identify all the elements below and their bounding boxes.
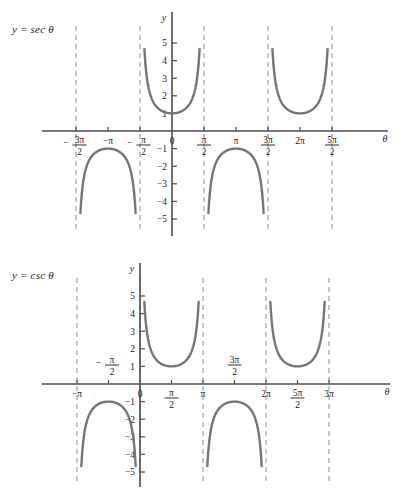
- x-tick-label: 0: [138, 389, 143, 399]
- x-tick-label-denominator: 2: [141, 147, 146, 157]
- curve-branch: [270, 302, 324, 367]
- axes-group: [42, 263, 390, 487]
- y-tick-label: 5: [162, 38, 167, 48]
- axes-group: [42, 12, 388, 236]
- x-tick-label-numerator: 5π: [327, 135, 337, 145]
- x-tick-label-numerator: 3π: [263, 135, 273, 145]
- plot-secant: −3π2−π−π20π2π3π22π5π254321−1−2−3−4−5yθ: [0, 0, 414, 245]
- y-tick-label: −5: [157, 214, 167, 224]
- x-tick-label-denominator: 2: [232, 367, 237, 377]
- y-axis-label: y: [161, 12, 167, 23]
- x-tick-label-denominator: 2: [295, 400, 300, 410]
- y-axis-label: y: [129, 263, 135, 274]
- equation-label-sec: y = sec θ: [12, 23, 54, 35]
- y-tick-label: 4: [130, 309, 135, 319]
- y-tick-label: −1: [125, 397, 135, 407]
- plot-cosecant: −π−π20π2π3π22π5π23π54321−1−2−3−4−5yθ: [0, 245, 414, 491]
- x-tick-label: 3π: [324, 389, 334, 399]
- x-tick-label: 2π: [261, 389, 271, 399]
- curve-branch: [208, 149, 263, 214]
- y-tick-label: −4: [157, 197, 167, 207]
- y-tick-label: 2: [130, 344, 135, 354]
- y-tick-label: −2: [157, 162, 167, 172]
- figure-secant: y = sec θ −3π2−π−π20π2π3π22π5π254321−1−2…: [0, 0, 414, 245]
- y-tick-label: 1: [130, 362, 135, 372]
- x-tick-label-numerator: π: [202, 135, 207, 145]
- x-tick-label-sign: −: [63, 138, 68, 148]
- x-tick-label-denominator: 2: [110, 367, 115, 377]
- curve-branch: [144, 302, 198, 367]
- x-tick-label-denominator: 2: [266, 147, 271, 157]
- y-tick-label: 4: [162, 56, 167, 66]
- y-tick-label: −1: [157, 144, 167, 154]
- x-axis-label: θ: [383, 133, 388, 144]
- equation-label-csc: y = csc θ: [12, 269, 54, 281]
- x-tick-label: π: [201, 389, 206, 399]
- x-tick-label-sign: −: [127, 138, 132, 148]
- x-tick-label-denominator: 2: [77, 147, 82, 157]
- x-tick-label-numerator: 5π: [293, 388, 303, 398]
- y-tick-label: −5: [125, 467, 135, 477]
- x-tick-label-numerator: 3π: [230, 355, 240, 365]
- curve-branch: [80, 149, 135, 214]
- y-tick-label: −3: [157, 179, 167, 189]
- x-tick-label-numerator: π: [110, 355, 115, 365]
- x-tick-label: π: [234, 136, 239, 146]
- y-tick-label: 3: [162, 74, 167, 84]
- x-tick-label-numerator: π: [141, 135, 146, 145]
- x-tick-label: 2π: [295, 136, 305, 146]
- x-tick-label: −π: [72, 389, 82, 399]
- x-tick-label-denominator: 2: [202, 147, 207, 157]
- x-tick-label-numerator: 3π: [75, 135, 85, 145]
- curve-branch: [272, 49, 327, 114]
- x-tick-label-sign: −: [96, 358, 101, 368]
- x-axis-label: θ: [385, 386, 390, 397]
- x-tick-label: 0: [170, 136, 175, 146]
- x-tick-label-denominator: 2: [330, 147, 335, 157]
- x-tick-label-denominator: 2: [169, 400, 174, 410]
- x-tick-label: −π: [103, 136, 113, 146]
- y-tick-label: 5: [130, 291, 135, 301]
- y-tick-label: 3: [130, 327, 135, 337]
- y-tick-label: 2: [162, 91, 167, 101]
- figure-cosecant: y = csc θ −π−π20π2π3π22π5π23π54321−1−2−3…: [0, 245, 414, 491]
- x-tick-label-numerator: π: [169, 388, 174, 398]
- curve-branch: [207, 402, 261, 467]
